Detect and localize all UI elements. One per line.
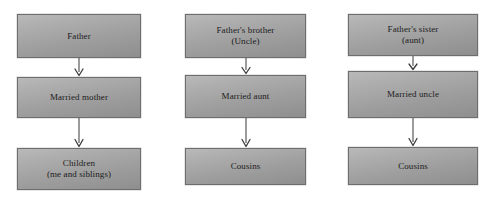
arrow-aunt-to-uncle bbox=[406, 56, 420, 71]
arrow-down-icon bbox=[239, 118, 253, 148]
arrow-down-icon bbox=[406, 118, 420, 147]
node-married-uncle: Married uncle bbox=[348, 71, 478, 118]
arrow-down-icon bbox=[72, 58, 86, 77]
node-children: Children(me and siblings) bbox=[17, 148, 141, 190]
arrow-down-icon bbox=[239, 58, 253, 75]
family-flowchart: Father Married mother Children(me and si… bbox=[0, 0, 492, 204]
node-cousins-aunt-side: Cousins bbox=[348, 147, 478, 185]
node-fathers-sister-label: Father's sister(aunt) bbox=[384, 24, 443, 46]
flow-column-fathers-sister: Father's sister(aunt) Married uncle Cous… bbox=[348, 0, 478, 204]
node-married-mother-label: Married mother bbox=[46, 92, 112, 103]
node-married-uncle-label: Married uncle bbox=[383, 89, 443, 100]
node-cousins-aunt-side-label: Cousins bbox=[394, 161, 432, 172]
flow-column-paternal-direct: Father Married mother Children(me and si… bbox=[17, 0, 141, 204]
node-fathers-brother: Father's brother(Uncle) bbox=[185, 14, 306, 58]
node-father: Father bbox=[17, 14, 141, 58]
arrow-uncle-to-cousins bbox=[406, 118, 420, 147]
node-fathers-brother-label: Father's brother(Uncle) bbox=[213, 25, 279, 47]
arrow-uncle-to-aunt bbox=[239, 58, 253, 75]
node-fathers-sister: Father's sister(aunt) bbox=[348, 14, 478, 56]
arrow-aunt-to-cousins bbox=[239, 118, 253, 148]
node-married-aunt-label: Married aunt bbox=[218, 91, 274, 102]
arrow-down-icon bbox=[72, 118, 86, 148]
arrow-father-to-mother bbox=[72, 58, 86, 77]
node-married-aunt: Married aunt bbox=[185, 75, 306, 118]
node-father-label: Father bbox=[63, 31, 95, 42]
arrow-mother-to-children bbox=[72, 118, 86, 148]
node-married-mother: Married mother bbox=[17, 77, 141, 118]
arrow-down-icon bbox=[406, 56, 420, 71]
node-cousins-uncle-side: Cousins bbox=[185, 148, 306, 185]
node-cousins-uncle-side-label: Cousins bbox=[227, 161, 265, 172]
flow-column-fathers-brother: Father's brother(Uncle) Married aunt Cou… bbox=[185, 0, 306, 204]
node-children-label: Children(me and siblings) bbox=[43, 158, 115, 180]
